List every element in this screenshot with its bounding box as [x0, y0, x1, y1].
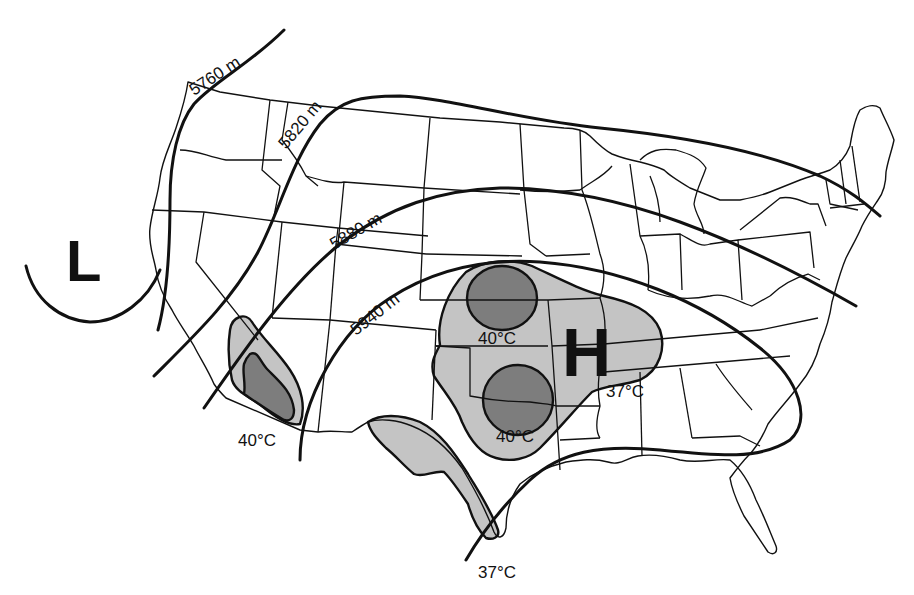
label-37c-texas: 37°C [478, 563, 516, 582]
contour-labels: 5760 m 5820 m 5880 m 5940 m [186, 53, 403, 340]
label-40c-southwest: 40°C [238, 431, 276, 450]
label-40c-kansas: 40°C [478, 329, 516, 348]
low-pressure-label: L [66, 228, 101, 293]
label-37c-central: 37°C [606, 382, 644, 401]
weather-map: 5760 m 5820 m 5880 m 5940 m 40°C 40°C 40… [0, 0, 914, 595]
temperature-zones [229, 261, 663, 539]
zone-40c-kansas [467, 266, 537, 330]
label-5760: 5760 m [186, 53, 244, 100]
label-40c-oklahoma: 40°C [496, 427, 534, 446]
high-pressure-label: H [562, 314, 611, 390]
label-5940: 5940 m [347, 289, 403, 339]
